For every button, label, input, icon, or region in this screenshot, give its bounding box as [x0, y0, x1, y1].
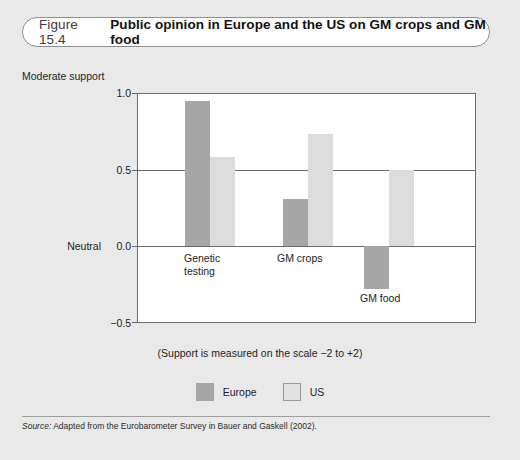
y-tick-label-2: 0.5: [116, 164, 131, 176]
scale-note: (Support is measured on the scale −2 to …: [0, 347, 520, 359]
zero-line: [138, 246, 475, 247]
category-label-gm-food: GM food: [360, 292, 400, 305]
category-label-gm-crops: GM crops: [277, 252, 323, 265]
legend-swatch-us-icon: [283, 383, 301, 401]
legend-label-europe: Europe: [223, 386, 257, 398]
bar-europe-gm-crops: [283, 199, 308, 247]
bar-europe-genetic-testing: [185, 101, 210, 247]
legend-item-us: US: [283, 383, 325, 401]
plot-area: Genetic testing GM crops GM food: [137, 93, 476, 323]
neutral-label: Neutral: [67, 240, 101, 252]
source-divider: [22, 416, 490, 417]
y-tick-label-1: 1.0: [116, 87, 131, 99]
source-keyword: Source:: [22, 421, 51, 431]
category-label-genetic-testing: Genetic testing: [184, 252, 220, 277]
y-tick-label-4: −0.5: [110, 317, 131, 329]
y-axis-tick-labels: 1.0 0.5 0.0 Neutral −0.5: [82, 93, 131, 323]
source-note: Source: Adapted from the Eurobarometer S…: [22, 421, 317, 431]
source-text: Adapted from the Eurobarometer Survey in…: [51, 421, 317, 431]
legend-label-us: US: [310, 386, 325, 398]
bar-europe-gm-food: [364, 246, 389, 289]
y-axis-title: Moderate support: [22, 70, 104, 82]
bar-us-genetic-testing: [210, 157, 235, 246]
y-tick-label-3: 0.0: [116, 240, 131, 252]
legend-item-europe: Europe: [196, 383, 257, 401]
chart-stage: Moderate support 1.0 0.5 0.0 Neutral −0.…: [0, 0, 520, 460]
legend-swatch-europe-icon: [196, 383, 214, 401]
bar-us-gm-crops: [308, 134, 333, 246]
bar-us-gm-food: [389, 170, 414, 247]
chart-legend: Europe US: [0, 383, 520, 401]
